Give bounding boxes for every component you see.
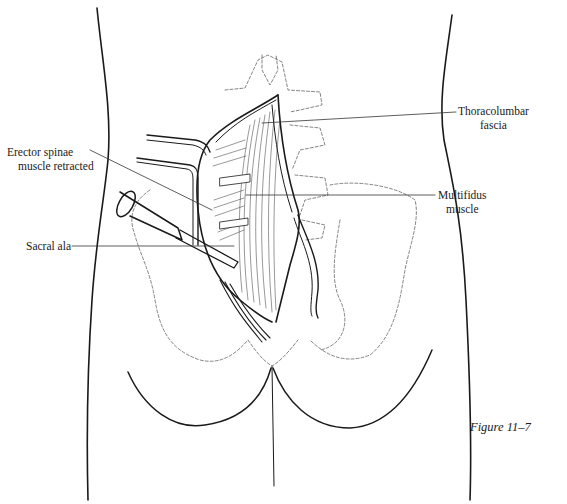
gluteal-cleft — [272, 366, 274, 486]
instrument-tip — [113, 188, 139, 219]
lumbar-vertebra-4 — [302, 220, 325, 240]
leader-erector — [90, 150, 212, 210]
multifidus-hatching — [239, 110, 280, 312]
label-erector-line1: Erector spinae — [7, 145, 94, 159]
label-thoracolumbar-line1: Thoracolumbar — [458, 104, 529, 118]
retractor-upper-inner — [147, 140, 206, 155]
instrument-shaft — [176, 230, 238, 268]
label-erector-line2: muscle retracted — [7, 159, 94, 173]
lumbar-vertebra-2 — [290, 125, 325, 170]
incision-right-edge — [276, 95, 299, 322]
retractor-lower — [137, 158, 198, 245]
buttock-right — [273, 350, 432, 428]
label-erector-spinae: Erector spinae muscle retracted — [7, 145, 94, 173]
nerve-right-inner — [294, 218, 312, 316]
pelvis-right-inner — [320, 220, 345, 350]
figure-caption: Figure 11–7 — [470, 420, 531, 435]
label-sacral-line1: Sacral ala — [26, 239, 71, 253]
label-multifidus-line1: Multifidus — [438, 188, 487, 202]
label-thoracolumbar-fascia: Thoracolumbar fascia — [458, 104, 529, 132]
label-sacral-ala: Sacral ala — [26, 239, 71, 253]
body-outline-right — [442, 15, 471, 500]
spinous-process-top — [262, 55, 278, 85]
transverse-process-2 — [220, 218, 248, 229]
label-thoracolumbar-line2: fascia — [458, 118, 529, 132]
label-multifidus-line2: muscle — [438, 202, 487, 216]
body-outline-left — [87, 8, 109, 500]
buttock-left — [128, 368, 271, 426]
pelvis-left-iliac — [132, 190, 248, 361]
transverse-process-1 — [220, 174, 250, 186]
nerve-bundle-left — [220, 280, 270, 342]
leader-thoracolumbar — [262, 112, 456, 123]
pelvis-right-iliac — [310, 183, 416, 359]
label-multifidus-muscle: Multifidus muscle — [438, 188, 487, 216]
nerve-right — [298, 215, 318, 318]
lumbar-vertebra-1 — [225, 55, 322, 112]
sacrum-outline — [248, 340, 298, 366]
fascia-inner-right — [272, 105, 292, 212]
